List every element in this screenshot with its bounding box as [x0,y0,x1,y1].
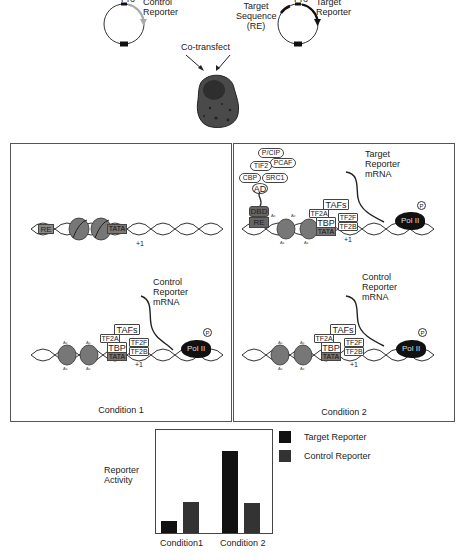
legend-label-control: Control Reporter [304,451,371,461]
chart-plot-area [155,429,273,534]
tf2f-box: TF2F [338,213,358,222]
bar-target-condition1 [161,521,177,533]
pcip-box: P/CIP [258,148,284,158]
tif2-box: TIF2 [250,161,272,171]
src1-box: SRC1 [262,173,288,183]
plus1-label: +1 [350,360,358,370]
panel-condition-1: RE TATA +1 Control Reporter mRNA Ac Ac A… [10,143,232,422]
pcaf-box: PCAF [270,158,296,168]
acetyl-mark: Ac [86,340,91,345]
acetyl-mark: Ac [63,340,68,345]
cbp-box: CBP [239,173,261,183]
acetyl-mark: Ac [86,366,91,371]
dna-helix-icon [31,214,231,244]
plus1-label: +1 [136,239,144,249]
tf2b-box: TF2B [338,222,358,231]
acetyl-mark: Ac [271,213,276,218]
panel-caption: Condition 1 [11,405,231,415]
plus1-label: +1 [135,360,143,370]
target-reporter-label: Target Reporter [316,0,351,17]
re-element: RE [249,217,269,228]
phosphate-icon: P [417,201,426,210]
acetyl-mark: Ac [300,340,305,345]
x-tick-label: Condition 2 [220,538,266,548]
panel-condition-2: Target Reporter mRNA P/CIP PCAF TIF2 CBP… [233,143,455,422]
tafs-box: TAFs [330,324,356,335]
acetyl-mark: Ac [63,366,68,371]
phosphate-icon: P [203,328,212,337]
bar-control-condition2 [244,503,260,533]
tata-box: TATA [321,352,341,361]
target-sequence-label: Target Sequence (RE) [236,1,276,31]
acetyl-mark: Ac [278,366,283,371]
legend-swatch-target [279,431,291,443]
tata-box: TATA [107,224,127,234]
acetyl-mark: Ac [300,366,305,371]
bar-control-condition1 [183,502,199,533]
panel-caption: Condition 2 [234,407,454,417]
legend-swatch-control [279,450,291,462]
acetyl-mark: Ac [304,240,309,245]
tf2b-box: TF2B [344,347,364,356]
pol-ii: Pol II [181,340,211,358]
cotransfect-arrows-icon [180,52,240,74]
pol-ii: Pol II [395,212,425,230]
re-element: RE [38,224,54,234]
phosphate-icon: P [418,328,427,337]
legend-label-target: Target Reporter [304,432,367,442]
pol-ii: Pol II [396,340,426,358]
tata-box: TATA [316,227,336,236]
control-reporter-label: Control Reporter [143,0,178,17]
acetyl-mark: Ac [291,213,296,218]
tata-box: TATA [107,352,127,361]
tf2f-box: TF2F [344,338,364,347]
tf2f-box: TF2F [129,338,149,347]
cotransfect-label: Co-transfect [181,42,230,52]
tf2b-box: TF2B [129,347,149,356]
acetyl-mark: Ac [280,240,285,245]
acetyl-mark: Ac [278,340,283,345]
cell-icon [196,74,242,130]
plus1-label: +1 [344,235,352,245]
x-tick-label: Condition1 [160,538,203,548]
y-axis-label: Reporter Activity [104,465,139,485]
bar-target-condition2 [222,451,238,533]
control-promoter-label: Pro [121,0,135,4]
target-promoter-label: Pro [294,0,308,4]
